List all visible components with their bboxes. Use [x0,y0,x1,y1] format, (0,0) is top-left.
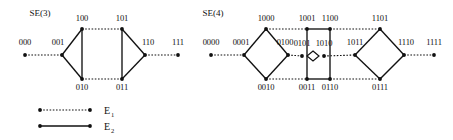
node-label-0010: 0010 [258,82,275,92]
node-0110[interactable] [328,77,332,81]
node-label-0100: 0100 [277,37,294,47]
node-label-100: 100 [76,13,88,23]
figure-canvas: 000001100101010011110111SE(3)00000001100… [0,0,453,140]
node-label-1010: 1010 [316,38,333,48]
node-011[interactable] [120,77,124,81]
legend-e2-label: E [104,121,110,132]
legend-e1-endpoint-0 [38,108,42,112]
node-label-0111: 0111 [372,82,388,92]
legend-e2-label-subscript: 2 [111,127,114,134]
legend-e2-endpoint-0 [38,124,42,128]
node-1110[interactable] [402,53,406,57]
node-label-1001: 1001 [299,13,316,23]
edge-e2-m1011-m0111 [355,55,380,79]
node-0011[interactable] [305,77,309,81]
node-label-1110: 1110 [398,37,414,47]
node-1001[interactable] [305,27,309,31]
node-label-1111: 1111 [426,37,442,47]
node-label-0110: 0110 [322,82,338,92]
edge-e2-m0001-m0010 [244,55,266,79]
node-label-1101: 1101 [372,13,388,23]
graph-figure: 000001100101010011110111SE(3)00000001100… [0,0,453,140]
panel-title-se4: SE(4) [203,8,224,18]
node-label-0011: 0011 [299,82,315,92]
node-label-000: 000 [19,37,31,47]
graph-panel-se4: 0000000110000010010010010011010110101100… [203,8,442,92]
node-label-111: 111 [172,37,184,47]
node-1011[interactable] [353,53,357,57]
node-101[interactable] [120,27,124,31]
node-001[interactable] [60,53,64,57]
edge-e2-n011-n110 [122,55,145,79]
node-group-se3 [23,27,180,81]
node-1101[interactable] [378,27,382,31]
node-100[interactable] [80,27,84,31]
node-0101[interactable] [300,54,304,58]
node-label-0101: 0101 [294,38,311,48]
node-label-group-se4: 0000000110000010010010010011010110101100… [203,13,442,92]
node-label-011: 011 [116,82,128,92]
node-0010[interactable] [264,77,268,81]
node-0111[interactable] [378,77,382,81]
legend-e1-label-subscript: 1 [111,111,114,118]
node-label-0001: 0001 [233,37,250,47]
node-110[interactable] [143,53,147,57]
node-010[interactable] [80,77,84,81]
node-1000[interactable] [264,27,268,31]
node-label-0000: 0000 [203,37,220,47]
edge-group-se3 [25,29,178,79]
edge-e1-m1010-m1011 [324,55,355,56]
center-rhombus-marker [307,51,319,61]
legend: E1E2 [38,105,114,134]
node-000[interactable] [23,53,27,57]
node-label-001: 001 [52,37,64,47]
node-0001[interactable] [242,53,246,57]
node-label-1000: 1000 [258,13,275,23]
node-label-110: 110 [142,37,154,47]
node-1111[interactable] [432,53,436,57]
node-0100[interactable] [286,53,290,57]
edge-e2-n001-n100 [62,29,82,55]
edge-e2-m0111-m1110 [380,55,404,79]
node-group-se4 [209,27,436,81]
node-111[interactable] [176,53,180,57]
node-1100[interactable] [328,27,332,31]
node-label-010: 010 [76,82,88,92]
node-1010[interactable] [322,54,326,58]
node-label-1100: 1100 [322,13,338,23]
edge-e1-m0100-m0101 [288,55,302,56]
node-label-group-se3: 000001100101010011110111 [19,13,184,92]
legend-e1-label: E [104,105,110,116]
panel-title-se3: SE(3) [30,8,51,18]
legend-e2-endpoint-1 [88,124,92,128]
node-label-101: 101 [116,13,128,23]
node-0000[interactable] [209,53,213,57]
edge-e2-n001-n010 [62,55,82,79]
node-label-1011: 1011 [347,37,363,47]
graph-panel-se3: 000001100101010011110111SE(3) [19,8,184,92]
edge-e2-m0010-m0100 [266,55,288,79]
legend-e1-endpoint-1 [88,108,92,112]
